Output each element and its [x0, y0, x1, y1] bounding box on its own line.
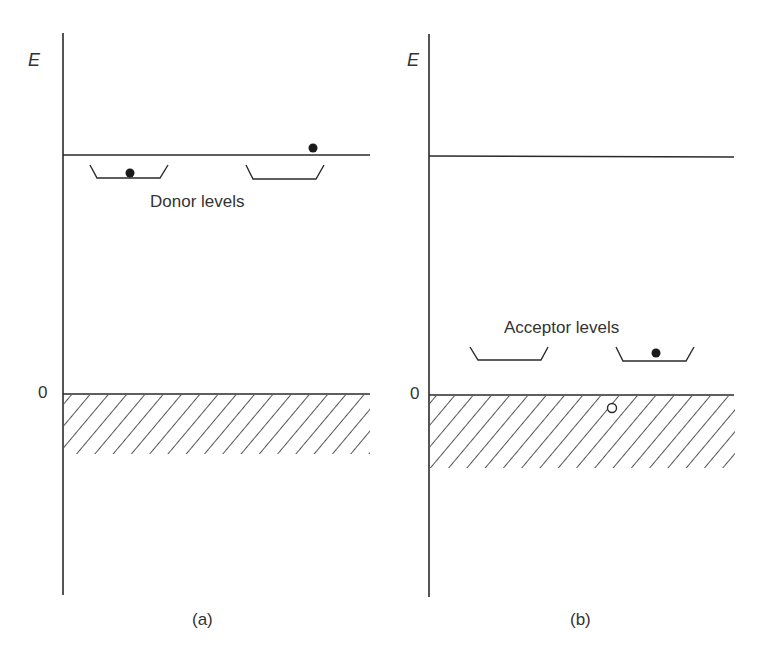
valence-band-hatch-b	[430, 396, 735, 468]
zero-label-b: 0	[410, 384, 419, 404]
acceptor-levels-label: Acceptor levels	[504, 318, 619, 338]
electron-in-acceptor	[652, 349, 661, 358]
acceptor-level-left	[470, 347, 548, 360]
panel-a	[63, 33, 370, 595]
electron-in-donor	[126, 169, 135, 178]
conduction-electron	[309, 144, 318, 153]
donor-level-right	[246, 165, 324, 179]
band-diagram-canvas	[0, 0, 770, 672]
donor-level-left	[90, 165, 168, 178]
energy-axis-label-b: E	[407, 50, 419, 71]
valence-band-hatch-a	[64, 395, 370, 454]
panel-caption-a: (a)	[192, 610, 213, 630]
hole-in-valence-band	[608, 404, 617, 413]
panel-caption-b: (b)	[570, 610, 591, 630]
energy-axis-label-a: E	[28, 50, 40, 71]
acceptor-level-right	[616, 347, 694, 361]
donor-levels-label: Donor levels	[150, 192, 245, 212]
conduction-band-edge-b	[429, 156, 734, 157]
zero-label-a: 0	[38, 383, 47, 403]
panel-b	[429, 34, 735, 597]
